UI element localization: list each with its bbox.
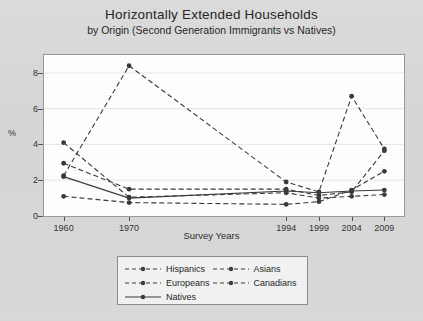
data-point-natives	[382, 188, 387, 193]
data-point-asians	[382, 147, 387, 152]
series-line-europeans	[64, 143, 385, 198]
chart-subtitle: by Origin (Second Generation Immigrants …	[0, 23, 423, 37]
y-tick-label: 0	[8, 211, 38, 221]
data-point-canadians	[317, 199, 322, 204]
x-axis-label: Survey Years	[0, 230, 423, 241]
data-point-natives	[349, 189, 354, 194]
legend-label: Asians	[254, 264, 281, 274]
legend-row: EuropeansCanadians	[125, 276, 300, 290]
data-point-natives	[61, 174, 66, 179]
legend-swatch-icon	[213, 278, 249, 288]
y-axis: 02468	[0, 54, 43, 219]
title-block: Horizontally Extended Households by Orig…	[0, 6, 423, 37]
legend-swatch-icon	[125, 278, 161, 288]
legend-swatch-icon	[125, 264, 161, 274]
chart-page: Horizontally Extended Households by Orig…	[0, 0, 423, 321]
legend-row: Natives	[125, 290, 300, 304]
x-tick-mark	[286, 217, 287, 221]
chart-legend: HispanicsAsiansEuropeansCanadiansNatives	[117, 256, 308, 305]
chart-title: Horizontally Extended Households	[0, 6, 423, 23]
data-point-asians	[284, 180, 289, 185]
data-point-canadians	[127, 200, 132, 205]
x-tick-mark	[129, 217, 130, 221]
legend-swatch-icon	[125, 292, 161, 302]
data-point-natives	[317, 190, 322, 195]
data-point-hispanics	[61, 161, 66, 166]
y-tick-label: 2	[8, 175, 38, 185]
plot-area	[43, 54, 405, 217]
series-line-asians	[64, 66, 385, 192]
data-point-natives	[127, 196, 132, 201]
legend-swatch-icon	[213, 264, 249, 274]
data-point-canadians	[61, 194, 66, 199]
data-point-natives	[284, 189, 289, 194]
y-axis-label: %	[8, 128, 16, 138]
legend-label: Hispanics	[166, 264, 205, 274]
y-tick-label: 8	[8, 68, 38, 78]
legend-label: Natives	[166, 292, 196, 302]
data-point-canadians	[284, 202, 289, 207]
x-tick-mark	[64, 217, 65, 221]
data-point-europeans	[349, 194, 354, 199]
y-tick-label: 4	[8, 139, 38, 149]
legend-item-natives: Natives	[125, 292, 217, 302]
legend-item-europeans: Europeans	[125, 278, 213, 288]
legend-label: Europeans	[166, 278, 210, 288]
data-point-europeans	[382, 192, 387, 197]
series-line-hispanics	[64, 151, 385, 196]
plot-lines	[44, 55, 404, 216]
legend-row: HispanicsAsians	[125, 262, 300, 276]
x-tick-mark	[319, 217, 320, 221]
data-point-canadians	[382, 169, 387, 174]
legend-item-canadians: Canadians	[213, 278, 301, 288]
x-tick-mark	[352, 217, 353, 221]
data-point-asians	[349, 94, 354, 99]
legend-label: Canadians	[254, 278, 297, 288]
data-point-asians	[127, 63, 132, 68]
legend-item-asians: Asians	[213, 264, 301, 274]
x-tick-mark	[384, 217, 385, 221]
legend-item-hispanics: Hispanics	[125, 264, 213, 274]
data-point-hispanics	[127, 187, 132, 192]
series-line-canadians	[64, 171, 385, 204]
data-point-europeans	[61, 140, 66, 145]
y-tick-label: 6	[8, 104, 38, 114]
